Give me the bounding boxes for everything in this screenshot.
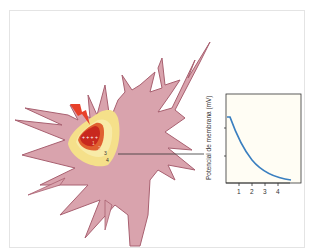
dendrite-left-bottom	[28, 178, 65, 195]
x-tick-2: 2	[250, 188, 254, 195]
x-tick-4: 4	[276, 188, 280, 195]
neuron-diagram: + + + + 1 2 3 4	[0, 0, 315, 252]
y-axis-label: Potencial de membrana (mV)	[205, 95, 212, 180]
x-tick-3: 3	[263, 188, 267, 195]
charges-label: + + + +	[82, 134, 98, 140]
x-tick-1: 1	[237, 188, 241, 195]
zone-label-4: 4	[106, 157, 109, 163]
zone-label-3: 3	[104, 150, 107, 156]
zone-label-2: 2	[98, 145, 101, 151]
zone-label-1: 1	[92, 140, 95, 146]
dendrite-bottom	[105, 200, 112, 230]
